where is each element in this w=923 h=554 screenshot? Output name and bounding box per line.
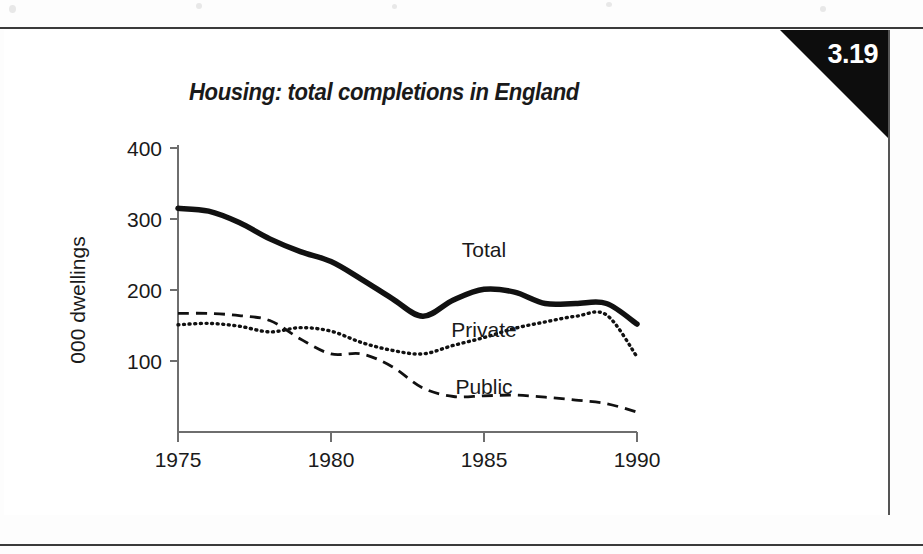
page-rule-top: [0, 27, 923, 29]
y-tick-label-100: 100: [127, 350, 162, 373]
series-line-private: [178, 312, 637, 357]
x-axis-ticks: [178, 432, 637, 442]
series-label-public: Public: [455, 375, 512, 398]
scan-speckle: [606, 2, 612, 7]
y-tick-label-400: 400: [127, 137, 162, 160]
scan-speckle: [820, 6, 826, 12]
y-axis-ticks: [170, 148, 178, 361]
x-tick-label-1975: 1975: [155, 448, 202, 471]
y-tick-label-300: 300: [127, 208, 162, 231]
y-axis-title: 000 dwellings: [66, 236, 89, 363]
scan-speckle: [392, 4, 397, 9]
x-tick-label-1980: 1980: [308, 448, 355, 471]
scan-speckle: [9, 5, 16, 13]
x-tick-label-1990: 1990: [614, 448, 661, 471]
x-tick-label-1985: 1985: [461, 448, 508, 471]
series-label-total: Total: [462, 238, 506, 261]
y-tick-label-200: 200: [127, 279, 162, 302]
figure-panel: Housing: total completions in England 40…: [4, 30, 890, 515]
chart-plot-area: 400 300 200 100 1975 1980 1985 1990 000 …: [4, 30, 888, 515]
series-line-total: [178, 208, 637, 324]
page-canvas: Housing: total completions in England 40…: [0, 0, 923, 554]
page-rule-bottom: [0, 544, 923, 546]
scan-speckle: [196, 3, 202, 9]
series-label-private: Private: [451, 318, 516, 341]
